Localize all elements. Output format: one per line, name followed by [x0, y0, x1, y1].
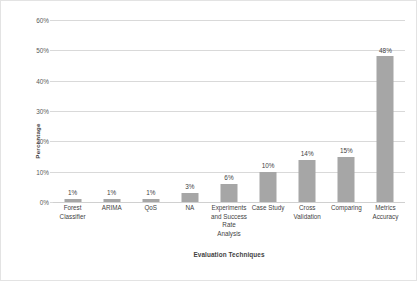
x-tick-label: Case Study [249, 204, 288, 213]
x-tick-label-line: Validation [288, 213, 327, 222]
x-tick-label: MetricsAccuracy [366, 204, 405, 221]
bar[interactable] [299, 160, 316, 202]
x-axis-tick-labels: ForestClassifierARIMAQoSNAExperimentsand… [53, 204, 405, 254]
bar-value-label: 15% [340, 147, 353, 154]
bar-slot: 15% [327, 20, 366, 202]
bar-value-label: 1% [68, 189, 77, 196]
x-tick-label-line: Classifier [53, 213, 92, 222]
bar-slot: 1% [53, 20, 92, 202]
bar-slot: 10% [249, 20, 288, 202]
bar-value-label: 1% [107, 189, 116, 196]
y-tick-label: 40% [36, 77, 49, 84]
x-tick-label-line: and Success [209, 213, 248, 222]
y-tick-label: 10% [36, 168, 49, 175]
x-tick-label-line: Comparing [327, 204, 366, 213]
x-tick-label-line: Case Study [249, 204, 288, 213]
bar-value-label: 14% [301, 150, 314, 157]
x-tick-label: NA [170, 204, 209, 213]
x-tick-label-line: Metrics [366, 204, 405, 213]
x-tick-label: CrossValidation [288, 204, 327, 221]
y-tick-label: 20% [36, 138, 49, 145]
bar[interactable] [142, 199, 159, 202]
bar-chart-figure: Percentage 0%10%20%30%40%50%60% 1%1%1%3%… [0, 0, 417, 281]
bar-slot: 6% [209, 20, 248, 202]
bar[interactable] [260, 172, 277, 202]
x-tick-label-line: Experiments [209, 204, 248, 213]
bar[interactable] [377, 56, 394, 202]
plot-area: 0%10%20%30%40%50%60% 1%1%1%3%6%10%14%15%… [53, 20, 405, 202]
bar-slot: 3% [170, 20, 209, 202]
bar-slot: 1% [92, 20, 131, 202]
bar[interactable] [64, 199, 81, 202]
x-tick-label: Experimentsand SuccessRateAnalysis [209, 204, 248, 238]
x-tick-label: QoS [131, 204, 170, 213]
bar[interactable] [103, 199, 120, 202]
x-tick-label: ForestClassifier [53, 204, 92, 221]
y-tick-mark [50, 202, 53, 203]
bar-slot: 14% [288, 20, 327, 202]
x-axis-title: Evaluation Techniques [53, 251, 405, 258]
x-tick-label-line: Analysis [209, 230, 248, 239]
bar-value-label: 3% [185, 183, 194, 190]
bar-value-label: 1% [146, 189, 155, 196]
gridline [53, 202, 405, 203]
bar[interactable] [181, 193, 198, 202]
x-tick-label-line: Forest [53, 204, 92, 213]
x-tick-label-line: NA [170, 204, 209, 213]
bar-value-label: 48% [379, 47, 392, 54]
x-tick-label: ARIMA [92, 204, 131, 213]
y-tick-label: 0% [40, 199, 49, 206]
x-tick-label-line: ARIMA [92, 204, 131, 213]
x-tick-label-line: QoS [131, 204, 170, 213]
bar[interactable] [338, 157, 355, 203]
bar[interactable] [220, 184, 237, 202]
x-tick-label-line: Cross [288, 204, 327, 213]
x-tick-label: Comparing [327, 204, 366, 213]
x-tick-label-line: Accuracy [366, 213, 405, 222]
bar-value-label: 10% [262, 162, 275, 169]
bar-slot: 1% [131, 20, 170, 202]
bars-layer: 1%1%1%3%6%10%14%15%48% [53, 20, 405, 202]
y-tick-label: 60% [36, 17, 49, 24]
bar-value-label: 6% [224, 174, 233, 181]
y-tick-label: 50% [36, 47, 49, 54]
x-tick-label-line: Rate [209, 221, 248, 230]
y-tick-label: 30% [36, 108, 49, 115]
bar-slot: 48% [366, 20, 405, 202]
